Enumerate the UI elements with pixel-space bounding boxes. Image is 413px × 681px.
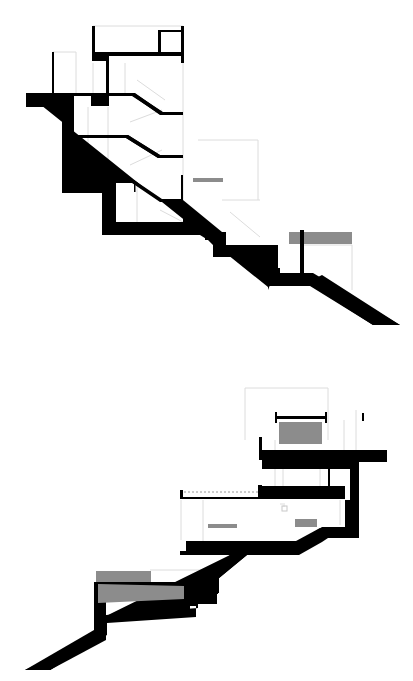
upper-structure-mass	[26, 93, 400, 325]
lower-upper-slab	[180, 450, 387, 555]
upper-cantilever-slab	[26, 93, 64, 107]
upper-left-railing	[52, 52, 54, 93]
upper-left-wall	[62, 93, 74, 193]
lower-mullion	[328, 450, 330, 486]
lower-gray-band	[208, 524, 237, 528]
upper-small-void	[280, 245, 301, 273]
upper-glazing-mullion	[181, 175, 183, 200]
upper-stair-3	[116, 180, 183, 202]
upper-gray-band	[193, 178, 223, 182]
lower-slope-base	[25, 630, 106, 670]
lower-gray-upper-block	[279, 422, 322, 444]
lower-gray-upper-strip	[96, 571, 151, 582]
lower-gray-small-block	[295, 519, 317, 527]
lower-small-square	[282, 506, 287, 511]
upper-small-post-front	[300, 230, 304, 273]
drawing-canvas	[0, 0, 413, 681]
upper-section	[26, 26, 400, 325]
section-drawings	[0, 0, 413, 681]
lower-section	[25, 388, 387, 670]
upper-roof-structure	[92, 26, 184, 93]
upper-gray-block	[289, 232, 352, 244]
upper-stair-post	[134, 184, 136, 192]
upper-stair-1	[74, 93, 183, 115]
